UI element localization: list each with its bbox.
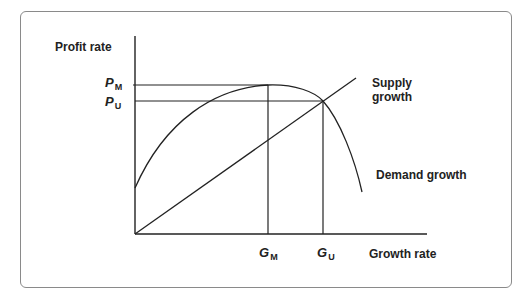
x-tick-gm: GM — [259, 245, 278, 262]
x-tick-gu: GU — [317, 245, 335, 262]
x-axis-label: Growth rate — [369, 247, 436, 261]
supply-growth-label: Supply growth — [372, 76, 412, 104]
y-axis-label: Profit rate — [55, 40, 112, 54]
y-tick-pu: PU — [105, 94, 121, 111]
demand-growth-label: Demand growth — [376, 168, 467, 182]
y-tick-pm: PM — [105, 75, 122, 92]
